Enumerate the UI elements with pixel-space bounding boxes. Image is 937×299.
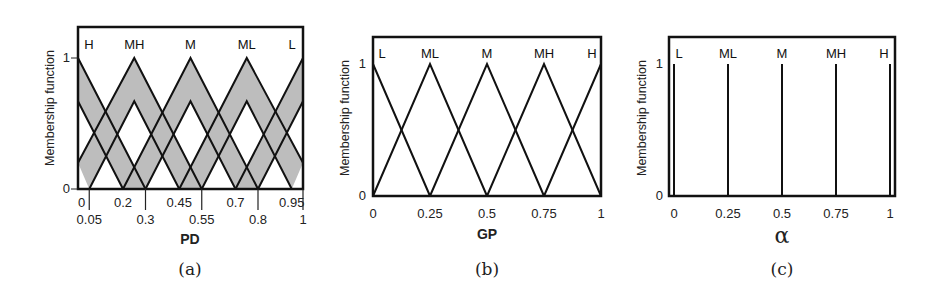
- caption: (a): [178, 259, 201, 279]
- mf-label-ml: ML: [719, 46, 737, 61]
- x-tick: 0: [369, 206, 376, 221]
- mf-label-h: H: [587, 46, 596, 61]
- x-tick: 0.5: [773, 206, 791, 221]
- mf-label-mh: MH: [826, 46, 846, 61]
- y-tick-0: 0: [359, 188, 366, 203]
- mf-label-ml: ML: [238, 37, 256, 52]
- y-axis-label: Membership function: [43, 50, 57, 166]
- x-tick: 0.25: [417, 206, 442, 221]
- mf-label-l: L: [675, 46, 682, 61]
- mf-m: [430, 64, 544, 196]
- x-tick: 0.5: [478, 206, 496, 221]
- x-tick: 0.3: [136, 212, 154, 227]
- x-tick: 0.75: [531, 206, 556, 221]
- x-tick: 0.75: [823, 206, 848, 221]
- mf-label-h: H: [84, 37, 93, 52]
- mf-label-m: M: [482, 46, 493, 61]
- x-axis-label: α: [775, 223, 790, 248]
- mf-label-mh: MH: [124, 37, 144, 52]
- panel-a-pd: 00.20.450.70.950.050.30.550.81 1 0 Membe…: [43, 27, 307, 279]
- x-tick: 0.55: [189, 212, 214, 227]
- caption: (c): [771, 259, 794, 279]
- x-tick: 0.7: [226, 195, 244, 210]
- mf-label-mh: MH: [534, 46, 554, 61]
- y-axis-label: Membership function: [338, 60, 352, 176]
- x-tick: 0.25: [715, 206, 740, 221]
- y-tick-0: 0: [63, 181, 70, 196]
- x-tick: 0.45: [167, 195, 192, 210]
- mf-label-m: M: [777, 46, 788, 61]
- x-axis-label: GP: [477, 226, 497, 242]
- x-tick: 0: [670, 206, 677, 221]
- panel-b-gp: 00.250.50.751 1 0 Membership function GP…: [338, 37, 605, 279]
- figure: 00.20.450.70.950.050.30.550.81 1 0 Membe…: [0, 0, 937, 299]
- x-tick: 0.8: [249, 212, 267, 227]
- mf-label-m: M: [185, 37, 196, 52]
- x-tick: 1: [886, 206, 893, 221]
- mf-ml: [373, 64, 487, 196]
- mf-label-ml: ML: [421, 46, 439, 61]
- y-tick-0: 0: [656, 188, 663, 203]
- x-tick: 1: [299, 212, 306, 227]
- mf-label-l: L: [288, 37, 295, 52]
- mf-label-h: H: [879, 46, 888, 61]
- x-tick: 0.05: [77, 212, 102, 227]
- x-tick: 0.2: [114, 195, 132, 210]
- y-tick-1: 1: [359, 56, 366, 71]
- y-axis-label: Membership function: [635, 60, 649, 176]
- y-tick-1: 1: [656, 56, 663, 71]
- mf-label-l: L: [378, 46, 385, 61]
- x-tick: 0: [78, 195, 85, 210]
- x-tick: 1: [597, 206, 604, 221]
- y-tick-1: 1: [63, 50, 70, 65]
- caption: (b): [475, 259, 499, 279]
- panel-c-alpha: 00.250.50.751 1 0 Membership function α …: [635, 37, 895, 279]
- x-axis-label: PD: [180, 231, 199, 247]
- x-tick: 0.95: [279, 195, 304, 210]
- mf-mh: [487, 64, 601, 196]
